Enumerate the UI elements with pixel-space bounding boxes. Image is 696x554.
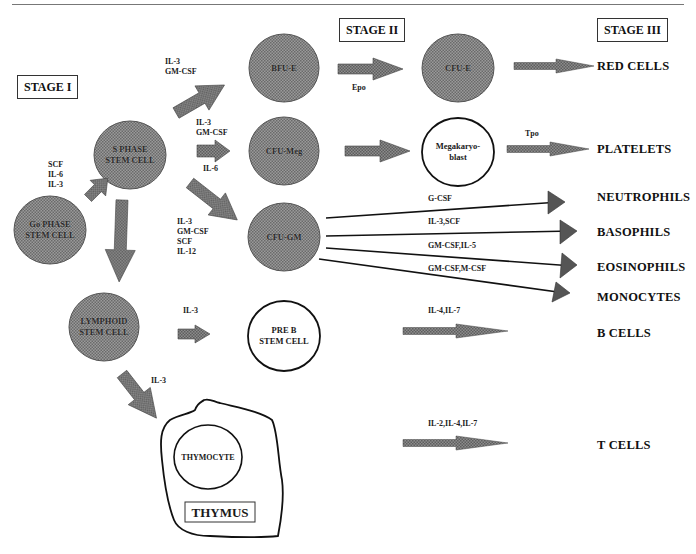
output-b-cells: B CELLS xyxy=(597,326,651,340)
cfu-e-label: CFU-E xyxy=(445,63,471,74)
megakaryoblast-label: Megakaryo- blast xyxy=(436,141,480,163)
arrow-lymphoid-to-thymus xyxy=(111,365,168,426)
output-eosinophils: EOSINOPHILS xyxy=(597,260,685,274)
monocytes-arrowhead-icon xyxy=(552,282,570,302)
thymus-label: THYMUS xyxy=(191,507,248,518)
s-phase-stem-cell-label: S PHASE STEM CELL xyxy=(105,144,154,166)
output-platelets: PLATELETS xyxy=(597,142,672,156)
arrow-megakaryoblast-to-platelets xyxy=(507,142,589,156)
factor-s-to-cfu-meg-bottom: IL-6 xyxy=(203,164,218,174)
output-red-cells: RED CELLS xyxy=(597,59,669,73)
output-basophils: BASOPHILS xyxy=(597,225,670,239)
thymocyte-label: THYMOCYTE xyxy=(181,452,234,463)
arrow-lymphoid-to-pre-b xyxy=(178,325,210,343)
factor-epo: Epo xyxy=(352,83,366,93)
output-neutrophils: NEUTROPHILS xyxy=(597,190,690,204)
lymphoid-stem-cell-label: LYMPHOID STEM CELL xyxy=(79,316,128,338)
arrow-cfu-meg-to-megakaryoblast xyxy=(345,140,410,162)
factor-go-to-s: SCF IL-6 IL-3 xyxy=(48,160,63,190)
bfu-e-label: BFU-E xyxy=(271,63,297,74)
cfu-gm-label: CFU-GM xyxy=(267,232,302,243)
factor-b-cells: IL-4,IL-7 xyxy=(428,306,460,316)
line-to-neutrophils xyxy=(326,202,560,218)
arrow-to-b-cells xyxy=(403,324,508,338)
output-t-cells: T CELLS xyxy=(597,438,651,452)
factor-t-cells: IL-2,IL-4,IL-7 xyxy=(428,419,477,429)
factor-g-csf: G-CSF xyxy=(428,194,452,204)
factor-lymphoid-to-pre-b: IL-3 xyxy=(183,306,198,316)
arrow-to-t-cells xyxy=(403,436,508,450)
arrow-s-to-cfu-meg xyxy=(197,140,230,162)
factor-s-to-bfu-e: IL-3 GM-CSF xyxy=(165,57,197,77)
basophils-arrowhead-icon xyxy=(560,220,577,244)
go-phase-stem-cell-label: Go PHASE STEM CELL xyxy=(25,219,74,241)
cfu-meg-label: CFU-Meg xyxy=(266,146,302,157)
output-monocytes: MONOCYTES xyxy=(597,290,681,304)
arrow-cfu-e-to-red-cells xyxy=(514,59,594,73)
factor-tpo: Tpo xyxy=(525,129,539,139)
factor-il3-scf: IL-3,SCF xyxy=(428,217,460,227)
factor-s-to-cfu-gm: IL-3 GM-CSF SCF IL-12 xyxy=(177,217,209,257)
factor-gm-csf-m-csf: GM-CSF,M-CSF xyxy=(428,264,486,274)
neutrophils-arrowhead-icon xyxy=(548,191,565,214)
arrow-bfu-e-to-cfu-e xyxy=(338,58,403,80)
stage-2-label: STAGE II xyxy=(339,18,405,42)
diagram-canvas xyxy=(0,0,696,554)
stage-3-label: STAGE III xyxy=(597,18,668,42)
pre-b-stem-cell-label: PRE B STEM CELL xyxy=(259,325,308,347)
line-to-basophils xyxy=(326,231,573,236)
factor-gm-csf-il5: GM-CSF,IL-5 xyxy=(428,241,476,251)
arrow-s-to-lymphoid xyxy=(104,199,137,282)
stage-1-label: STAGE I xyxy=(17,75,78,99)
factor-lymphoid-to-thymus: IL-3 xyxy=(151,376,166,386)
factor-s-to-cfu-meg-top: IL-3 GM-CSF xyxy=(196,118,228,138)
eosinophils-arrowhead-icon xyxy=(560,253,577,278)
